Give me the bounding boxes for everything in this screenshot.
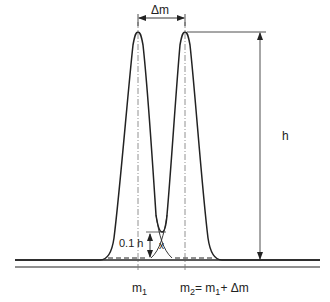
- resolution-diagram: Δm h 0.1 h x m1 m2= m1+ Δm: [0, 0, 330, 302]
- delta-m-label: Δm: [151, 4, 169, 16]
- peak2-left-flank: [151, 215, 167, 258]
- m1-label: m1: [132, 282, 147, 294]
- m2-subscript: 2: [190, 287, 195, 297]
- m2-formula: m2= m1+ Δm: [180, 282, 249, 294]
- height-label: h: [282, 130, 289, 142]
- peak1-right-flank: [156, 215, 172, 258]
- m2-eq: = m: [195, 281, 215, 295]
- spectrum-curve: [15, 32, 320, 260]
- valley-label: 0.1 h: [119, 238, 143, 249]
- m2-eq-subscript: 1: [215, 287, 220, 297]
- m1-subscript: 1: [142, 287, 147, 297]
- m2-base: m: [180, 281, 190, 295]
- m1-base: m: [132, 281, 142, 295]
- diagram-canvas: [0, 0, 330, 302]
- valley-mark: x: [159, 241, 164, 251]
- m2-plus: + Δm: [220, 281, 248, 295]
